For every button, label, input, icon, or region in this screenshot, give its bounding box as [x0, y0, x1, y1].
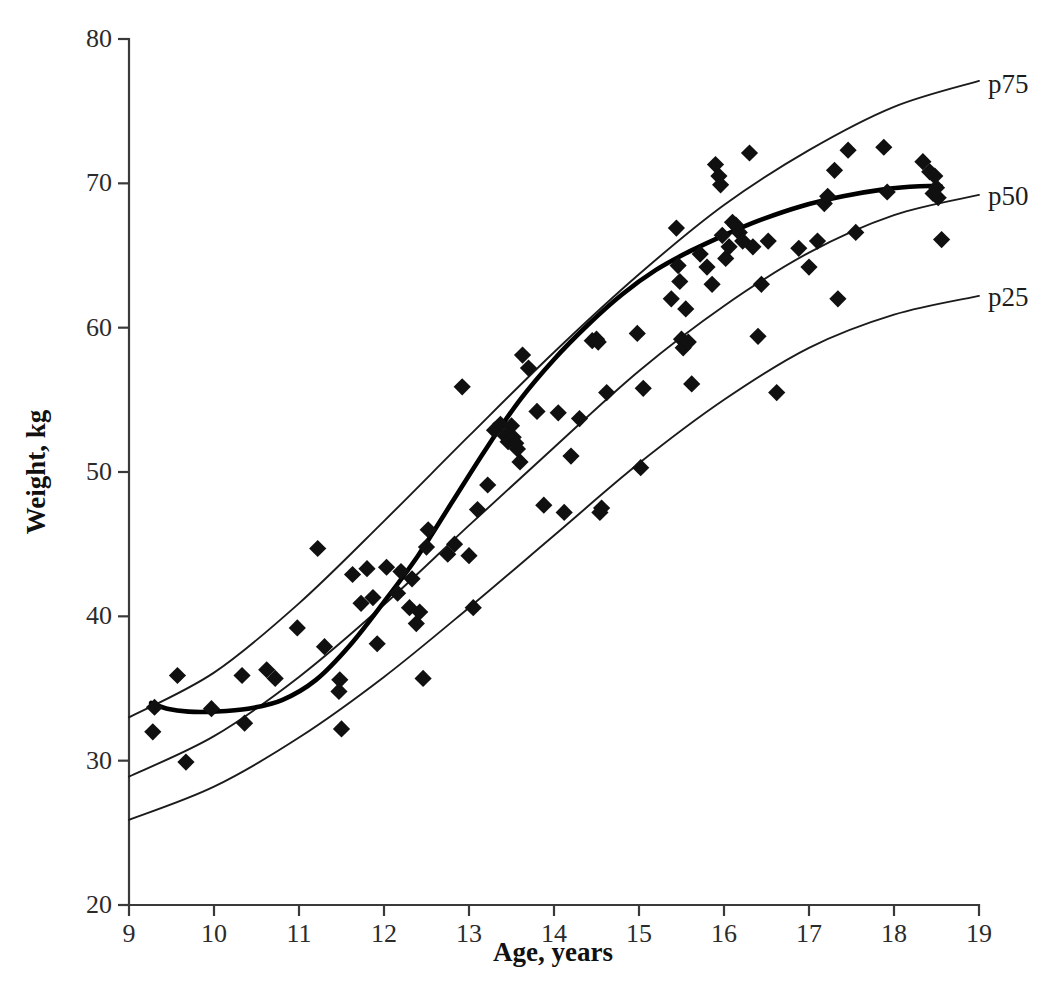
scatter-point [454, 378, 471, 395]
x-tick-label: 12 [371, 919, 397, 949]
x-tick-label: 13 [456, 919, 482, 949]
x-tick-label: 16 [711, 919, 737, 949]
scatter-point [749, 328, 766, 345]
scatter-point [169, 667, 186, 684]
scatter-point [829, 290, 846, 307]
scatter-point [528, 403, 545, 420]
scatter-point [203, 700, 220, 717]
scatter-point [309, 540, 326, 557]
x-tick-label: 15 [626, 919, 652, 949]
scatter-point [420, 521, 437, 538]
scatter-point [704, 276, 721, 293]
x-tick-label: 17 [796, 919, 822, 949]
scatter-point [753, 276, 770, 293]
scatter-point [331, 671, 348, 688]
scatter-point [800, 258, 817, 275]
y-tick-label: 80 [86, 24, 112, 54]
scatter-point [358, 560, 375, 577]
scatter-point [632, 459, 649, 476]
axes-group [118, 39, 979, 916]
scatter-point [344, 566, 361, 583]
scatter-point [333, 720, 350, 737]
scatter-point [289, 619, 306, 636]
y-tick-label: 60 [86, 313, 112, 343]
smoothed-mean-curve-group [151, 186, 941, 712]
scatter-point [233, 667, 250, 684]
scatter-point [683, 375, 700, 392]
y-tick-label: 40 [86, 601, 112, 631]
percentile-curve-p25 [129, 296, 979, 820]
scatter-point [556, 504, 573, 521]
scatter-point [629, 325, 646, 342]
scatter-point [460, 547, 477, 564]
scatter-point [677, 300, 694, 317]
scatter-point [144, 723, 161, 740]
scatter-point [826, 162, 843, 179]
percentile-label-p25: p25 [988, 281, 1029, 312]
scatter-point [598, 384, 615, 401]
x-tick-label: 11 [286, 919, 311, 949]
scatter-point [635, 380, 652, 397]
scatter-point [369, 635, 386, 652]
scatter-point [415, 670, 432, 687]
scatter-point [479, 476, 496, 493]
y-tick-label: 20 [86, 890, 112, 920]
scatter-point [840, 142, 857, 159]
percentile-label-p75: p75 [988, 68, 1029, 99]
scatter-point [511, 453, 528, 470]
scatter-point [663, 290, 680, 307]
scatter-point [571, 410, 588, 427]
x-tick-label: 19 [966, 919, 992, 949]
scatter-point [378, 559, 395, 576]
y-tick-label: 70 [86, 168, 112, 198]
y-tick-label: 30 [86, 746, 112, 776]
scatter-point [469, 501, 486, 518]
scatter-point [768, 384, 785, 401]
scatter-point [177, 754, 194, 771]
scatter-point [550, 404, 567, 421]
scatter-point [671, 273, 688, 290]
y-axis-title: Weight, kg [21, 410, 52, 535]
growth-chart-figure: 20304050607080 910111213141516171819 p75… [0, 0, 1050, 1002]
scatter-point [809, 232, 826, 249]
scatter-point [316, 638, 333, 655]
x-axis-title: Age, years [493, 937, 613, 968]
percentile-curve-p75 [129, 81, 979, 718]
x-tick-label: 18 [881, 919, 907, 949]
smoothed-mean-curve [151, 186, 941, 712]
scatter-point [236, 715, 253, 732]
scatter-point [562, 448, 579, 465]
scatter-point [760, 232, 777, 249]
percentile-label-p50: p50 [988, 180, 1029, 211]
y-axis-ticks [118, 39, 129, 905]
x-tick-label: 10 [201, 919, 227, 949]
scatter-point [933, 231, 950, 248]
scatter-point [875, 139, 892, 156]
scatter-point [741, 144, 758, 161]
scatter-point [465, 599, 482, 616]
x-axis-ticks [129, 905, 979, 916]
plot-canvas [0, 0, 1050, 1002]
x-tick-label: 9 [123, 919, 136, 949]
y-tick-label: 50 [86, 457, 112, 487]
scatter-point [668, 219, 685, 236]
scatter-point [535, 497, 552, 514]
percentile-curve-p50 [129, 195, 979, 777]
